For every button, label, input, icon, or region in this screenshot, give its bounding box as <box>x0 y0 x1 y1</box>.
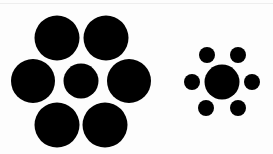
surround-circle <box>84 16 129 61</box>
surround-circle <box>198 100 214 116</box>
surround-circle <box>83 103 128 148</box>
center-circle <box>64 64 99 99</box>
small-surround-cluster <box>184 47 260 116</box>
illusion-figure <box>0 0 273 154</box>
surround-circle <box>35 16 80 61</box>
surround-circle <box>35 103 80 148</box>
surround-circle <box>244 74 260 90</box>
surround-circle <box>107 59 151 103</box>
large-surround-cluster <box>11 16 151 148</box>
surround-circle <box>230 100 246 116</box>
surround-circle <box>199 47 215 63</box>
ebbinghaus-diagram <box>0 0 273 154</box>
surround-circle <box>184 74 200 90</box>
surround-circle <box>11 59 55 103</box>
surround-circle <box>230 47 246 63</box>
center-circle <box>205 65 240 100</box>
